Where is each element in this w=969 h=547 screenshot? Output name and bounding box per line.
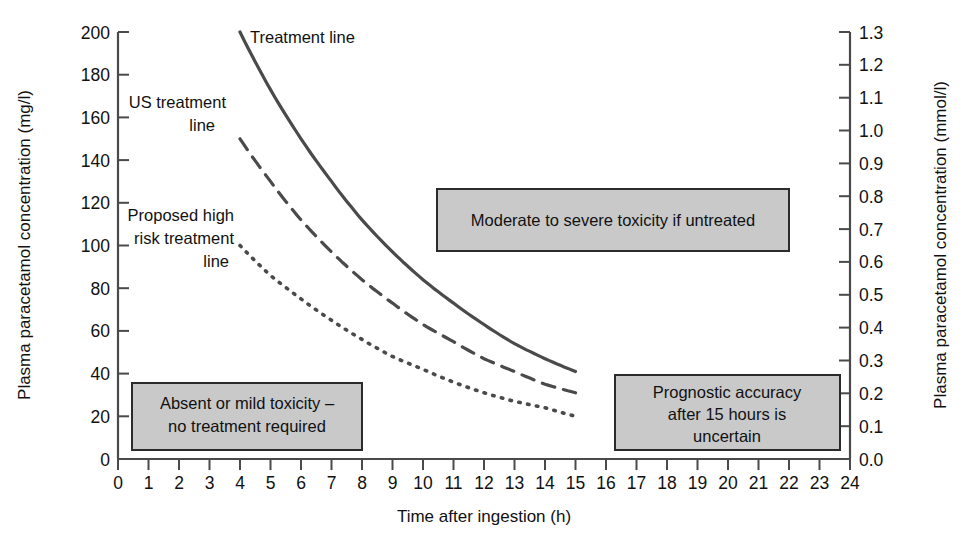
label-us-treatment-line-2: line [189, 116, 215, 134]
right-tick-label: 0.3 [859, 351, 883, 371]
left-axis-title: Plasma paracetamol concentration (mg/l) [15, 90, 34, 400]
right-tick-label: 0.7 [859, 220, 883, 240]
annotation-box-prognostic-accuracy: Prognostic accuracy after 15 hours is un… [615, 375, 840, 450]
x-tick-label: 22 [779, 473, 798, 493]
left-tick-label: 160 [81, 108, 110, 128]
label-high-risk-line-2: risk treatment [134, 229, 234, 247]
label-treatment-line: Treatment line [250, 28, 355, 46]
right-tick-label: 0.6 [859, 252, 883, 272]
left-tick-label: 20 [91, 407, 111, 427]
x-tick-label: 20 [718, 473, 738, 493]
x-tick-label: 18 [657, 473, 676, 493]
right-axis-title: Plasma paracetamol concentration (mmol/l… [931, 81, 950, 409]
x-tick-label: 2 [174, 473, 184, 493]
left-tick-label: 140 [81, 151, 110, 171]
right-tick-label: 1.2 [859, 55, 883, 75]
label-us-treatment-line-1: US treatment [129, 93, 227, 111]
annotation-prognostic-text-1: Prognostic accuracy [653, 383, 802, 401]
x-tick-label: 8 [357, 473, 367, 493]
annotation-prognostic-text-3: uncertain [693, 427, 761, 445]
left-tick-label: 100 [81, 236, 110, 256]
right-tick-label: 0.4 [859, 318, 884, 338]
x-tick-label: 13 [505, 473, 524, 493]
chart-svg: 200 180 160 140 120 100 80 60 40 20 0 [0, 0, 969, 547]
x-tick-label: 24 [840, 473, 860, 493]
right-tick-label: 1.1 [859, 88, 883, 108]
left-tick-label: 200 [81, 23, 110, 43]
label-high-risk-line-3: line [203, 252, 229, 270]
right-tick-label: 1.0 [859, 121, 884, 141]
x-tick-label: 3 [205, 473, 215, 493]
annotation-moderate-text: Moderate to severe toxicity if untreated [471, 211, 755, 229]
x-tick-label: 14 [535, 473, 555, 493]
x-tick-label: 1 [144, 473, 154, 493]
x-tick-label: 17 [627, 473, 646, 493]
right-tick-label: 0.0 [859, 450, 884, 470]
left-tick-label: 80 [91, 279, 111, 299]
left-tick-label: 0 [100, 450, 110, 470]
right-tick-label: 0.1 [859, 417, 883, 437]
x-tick-label: 11 [444, 473, 462, 493]
x-tick-label: 9 [388, 473, 398, 493]
paracetamol-nomogram-chart: 200 180 160 140 120 100 80 60 40 20 0 [0, 0, 969, 547]
left-tick-label: 120 [81, 193, 110, 213]
x-tick-label: 10 [413, 473, 433, 493]
right-tick-label: 0.5 [859, 285, 883, 305]
label-high-risk-line-1: Proposed high [128, 206, 234, 224]
bottom-axis-title: Time after ingestion (h) [397, 507, 571, 526]
left-tick-label: 180 [81, 65, 110, 85]
annotation-box-moderate-toxicity: Moderate to severe toxicity if untreated [437, 189, 789, 251]
right-tick-label: 0.8 [859, 187, 883, 207]
right-tick-label: 0.9 [859, 154, 883, 174]
left-tick-label: 60 [91, 321, 111, 341]
x-tick-label: 7 [327, 473, 337, 493]
x-tick-label: 6 [296, 473, 306, 493]
right-tick-label: 0.2 [859, 384, 883, 404]
annotation-absent-text-2: no treatment required [168, 417, 326, 435]
annotation-prognostic-text-2: after 15 hours is [668, 405, 786, 423]
x-tick-label: 5 [266, 473, 276, 493]
x-tick-label: 15 [566, 473, 585, 493]
x-tick-label: 4 [235, 473, 245, 493]
x-tick-label: 16 [596, 473, 615, 493]
annotation-box-absent-toxicity: Absent or mild toxicity – no treatment r… [132, 383, 362, 450]
right-tick-label: 1.3 [859, 23, 883, 43]
x-tick-label: 19 [688, 473, 707, 493]
annotation-absent-text-1: Absent or mild toxicity – [160, 394, 335, 412]
x-tick-label: 12 [474, 473, 493, 493]
x-tick-label: 21 [749, 473, 768, 493]
x-tick-label: 23 [810, 473, 829, 493]
x-tick-label: 0 [113, 473, 123, 493]
left-tick-label: 40 [91, 364, 111, 384]
